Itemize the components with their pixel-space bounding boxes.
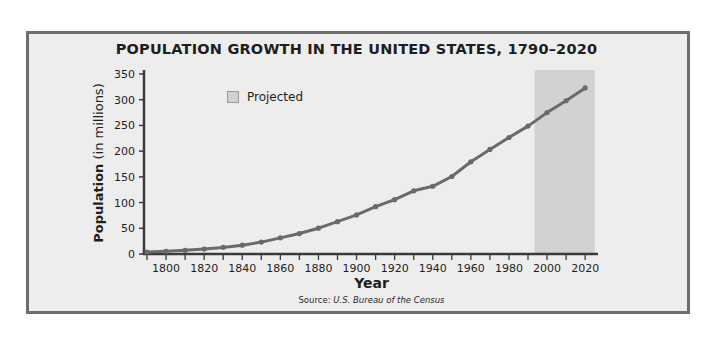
x-tick-label: 1800 [152,262,180,275]
data-point [278,235,283,240]
data-point [240,243,245,248]
data-point [297,231,302,236]
projected-region [535,70,595,254]
data-point [354,212,359,217]
data-point [583,85,588,90]
y-tick-label: 250 [114,119,135,132]
x-axis-label: Year [0,275,713,291]
x-tick-label: 2000 [533,262,561,275]
x-tick-label: 1860 [266,262,294,275]
y-tick-label: 300 [114,94,135,107]
data-point [544,110,549,115]
source-text: U.S. Bureau of the Census [333,295,444,305]
data-point [221,245,226,250]
data-point [564,98,569,103]
data-point [259,239,264,244]
data-point [392,197,397,202]
axes: 0501001502002503003501800182018401860188… [114,68,599,275]
x-tick-label: 1960 [457,262,485,275]
source-note: Source: U.S. Bureau of the Census [0,295,713,305]
x-tick-label: 1940 [419,262,447,275]
data-point [525,123,530,128]
y-tick-label: 200 [114,145,135,158]
y-tick-label: 350 [114,68,135,81]
x-tick-label: 1900 [343,262,371,275]
x-tick-label: 1880 [304,262,332,275]
x-tick-label: 1820 [190,262,218,275]
source-prefix: Source: [298,295,333,305]
population-line [144,85,587,254]
data-point [487,147,492,152]
data-point [183,248,188,253]
y-tick-label: 0 [128,248,135,261]
data-point [430,184,435,189]
data-point [411,188,416,193]
data-point [506,135,511,140]
x-tick-label: 1840 [228,262,256,275]
data-point [468,159,473,164]
x-tick-label: 1920 [381,262,409,275]
data-point [373,204,378,209]
y-tick-label: 150 [114,171,135,184]
data-point [316,226,321,231]
data-point [335,219,340,224]
data-point [144,249,149,254]
y-tick-label: 50 [121,222,135,235]
projected-band [535,70,595,254]
y-tick-label: 100 [114,197,135,210]
data-point [163,249,168,254]
population-polyline [147,88,585,252]
x-tick-label: 2020 [571,262,599,275]
data-point [449,174,454,179]
x-tick-label: 1980 [495,262,523,275]
data-point [202,246,207,251]
